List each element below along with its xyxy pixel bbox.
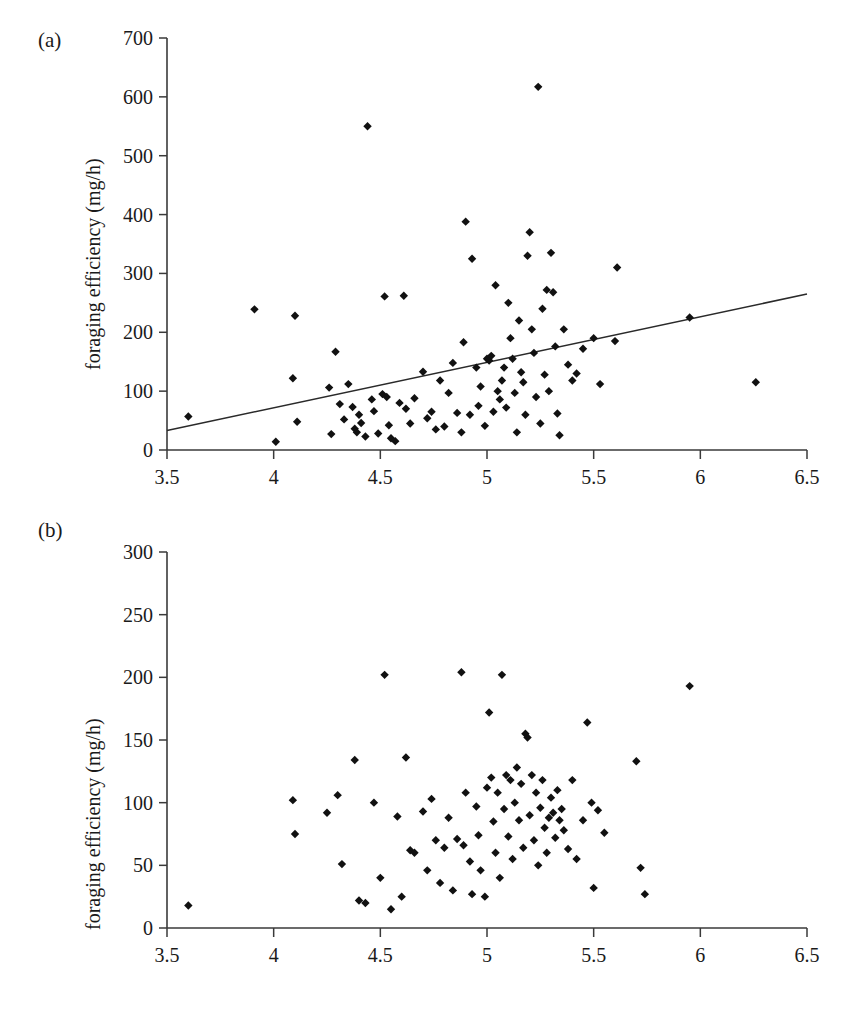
data-point	[476, 866, 484, 874]
data-point	[387, 905, 395, 913]
data-point	[534, 83, 542, 91]
data-point	[632, 757, 640, 765]
data-point	[613, 263, 621, 271]
panel-a-svg: 01002003004005006007003.544.555.566.5	[0, 0, 851, 500]
data-point	[568, 376, 576, 384]
data-point	[572, 855, 580, 863]
data-point	[406, 419, 414, 427]
data-point	[555, 816, 563, 824]
data-point	[515, 816, 523, 824]
data-point	[449, 886, 457, 894]
data-point	[444, 814, 452, 822]
data-point	[340, 415, 348, 423]
y-tick-label: 400	[123, 204, 153, 226]
data-point	[327, 430, 335, 438]
data-point	[483, 783, 491, 791]
data-point	[579, 816, 587, 824]
data-point	[459, 338, 467, 346]
data-point	[528, 325, 536, 333]
x-tick-label: 5	[482, 944, 492, 966]
data-point	[564, 845, 572, 853]
data-point	[481, 892, 489, 900]
data-point	[432, 425, 440, 433]
data-point	[489, 408, 497, 416]
y-tick-label: 100	[123, 792, 153, 814]
data-point	[184, 901, 192, 909]
data-point	[291, 830, 299, 838]
data-point	[395, 399, 403, 407]
data-point	[457, 668, 465, 676]
data-point	[519, 844, 527, 852]
data-point	[540, 824, 548, 832]
data-point	[528, 771, 536, 779]
y-tick-label: 100	[123, 380, 153, 402]
data-point	[184, 412, 192, 420]
x-tick-label: 6.5	[795, 466, 820, 488]
data-point	[532, 393, 540, 401]
data-point	[636, 864, 644, 872]
y-tick-label: 600	[123, 86, 153, 108]
data-point	[272, 438, 280, 446]
x-tick-label: 4.5	[368, 944, 393, 966]
y-tick-label: 50	[133, 854, 153, 876]
panel-b-svg: 0501001502002503003.544.555.566.5	[0, 500, 851, 1000]
data-point	[293, 418, 301, 426]
y-tick-label: 700	[123, 27, 153, 49]
data-point	[459, 841, 467, 849]
data-point	[427, 795, 435, 803]
data-point	[457, 428, 465, 436]
data-point	[376, 874, 384, 882]
data-point	[589, 334, 597, 342]
data-point	[547, 793, 555, 801]
data-point	[370, 407, 378, 415]
y-tick-label: 0	[143, 917, 153, 939]
x-tick-label: 3.5	[155, 466, 180, 488]
data-point	[579, 345, 587, 353]
data-point	[508, 855, 516, 863]
data-point	[361, 432, 369, 440]
data-point	[423, 414, 431, 422]
data-point	[325, 383, 333, 391]
data-point	[436, 879, 444, 887]
data-point	[440, 422, 448, 430]
data-point	[491, 281, 499, 289]
data-point	[338, 860, 346, 868]
data-point	[333, 791, 341, 799]
data-point	[453, 835, 461, 843]
data-point	[461, 788, 469, 796]
data-point	[476, 382, 484, 390]
data-point	[545, 387, 553, 395]
data-point	[551, 342, 559, 350]
data-point	[449, 359, 457, 367]
data-point	[496, 395, 504, 403]
data-point	[572, 369, 580, 377]
y-tick-label: 500	[123, 145, 153, 167]
panel-b-plot-area: 0501001502002503003.544.555.566.5	[0, 500, 851, 1000]
data-point	[419, 807, 427, 815]
data-point	[555, 431, 563, 439]
x-tick-label: 6.5	[795, 944, 820, 966]
data-point	[538, 305, 546, 313]
data-point	[551, 834, 559, 842]
data-point	[587, 798, 595, 806]
data-point	[436, 376, 444, 384]
data-point	[400, 292, 408, 300]
data-point	[513, 763, 521, 771]
data-point	[250, 305, 258, 313]
data-point	[493, 387, 501, 395]
data-point	[493, 788, 501, 796]
data-point	[440, 844, 448, 852]
data-point	[506, 334, 514, 342]
data-point	[641, 890, 649, 898]
data-point	[402, 405, 410, 413]
data-point	[536, 419, 544, 427]
data-point	[331, 348, 339, 356]
data-point	[393, 812, 401, 820]
data-point	[517, 780, 525, 788]
data-point	[397, 892, 405, 900]
data-point	[370, 798, 378, 806]
x-tick-label: 5.5	[581, 466, 606, 488]
data-point	[521, 410, 529, 418]
data-point	[427, 408, 435, 416]
data-point	[525, 228, 533, 236]
